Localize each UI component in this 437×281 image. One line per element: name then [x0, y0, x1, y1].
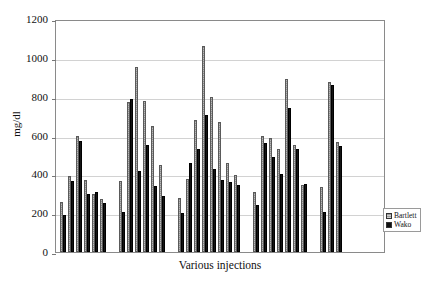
bar-pair [84, 180, 90, 252]
bar-pair [143, 101, 149, 252]
bar-wako [288, 108, 291, 252]
bar-pair [269, 138, 275, 252]
legend-swatch-wako [386, 222, 392, 228]
bar-wako [95, 192, 98, 252]
bar-pair [76, 136, 82, 253]
legend-label-wako: Wako [394, 220, 411, 229]
legend-swatch-bartlett [386, 213, 392, 219]
bar-pair [202, 46, 208, 252]
bar-pair [135, 67, 141, 252]
bar-pair [210, 97, 216, 252]
bar-pair [293, 145, 299, 252]
bar-wako [323, 212, 326, 252]
bar-wako [331, 85, 334, 252]
bar-wako [213, 169, 216, 252]
bar-series-container [56, 21, 384, 252]
bar-wako [138, 171, 141, 252]
bar-wako [296, 149, 299, 252]
bar-pair [92, 192, 98, 252]
y-tick-label: 1200 [16, 14, 48, 24]
bar-wako [79, 141, 82, 252]
legend-label-bartlett: Bartlett [394, 211, 417, 220]
bar-pair [301, 184, 307, 252]
bar-wako [229, 182, 232, 252]
legend-item-bartlett: Bartlett [386, 211, 417, 220]
bar-wako [146, 145, 149, 252]
y-tick-label: 400 [16, 169, 48, 179]
bar-wako [130, 99, 133, 252]
bar-wako [154, 186, 157, 252]
plot-area [55, 20, 385, 253]
y-tick-label: 1000 [16, 53, 48, 63]
y-axis-ticks: 020040060080010001200 [8, 0, 48, 281]
bar-wako [162, 196, 165, 252]
bar-wako [237, 185, 240, 252]
bar-wako [197, 149, 200, 252]
bar-pair [186, 163, 192, 252]
y-tick-mark [52, 254, 56, 255]
bar-wako [122, 212, 125, 252]
bar-pair [218, 122, 224, 252]
bar-wako [272, 157, 275, 252]
bar-pair [285, 79, 291, 252]
y-tick-label: 600 [16, 131, 48, 141]
y-tick-label: 800 [16, 92, 48, 102]
bar-pair [159, 165, 165, 252]
bar-wako [264, 143, 267, 252]
bar-pair [194, 120, 200, 252]
y-tick-label: 0 [16, 247, 48, 257]
bar-wako [103, 203, 106, 253]
bar-pair [320, 187, 326, 252]
bar-wako [71, 181, 74, 252]
bar-pair [127, 99, 133, 252]
bar-pair [100, 199, 106, 252]
bar-pair [336, 142, 342, 252]
bar-wako [339, 146, 342, 252]
chart-legend: Bartlett Wako [383, 208, 421, 232]
bar-wako [304, 184, 307, 252]
bar-pair [253, 192, 259, 252]
bar-wako [221, 180, 224, 252]
bar-pair [261, 136, 267, 253]
bar-pair [178, 198, 184, 252]
bar-pair [68, 176, 74, 252]
bar-pair [119, 181, 125, 252]
bar-wako [205, 115, 208, 252]
y-tick-label: 200 [16, 208, 48, 218]
bar-wako [280, 174, 283, 252]
bar-pair [226, 163, 232, 252]
bar-pair [234, 175, 240, 252]
bar-wako [63, 215, 66, 252]
bar-wako [256, 205, 259, 252]
bar-wako [87, 194, 90, 252]
bar-wako [181, 213, 184, 252]
bar-pair [277, 149, 283, 252]
chart-figure: mg/dl 020040060080010001200 Various inje… [0, 0, 437, 281]
bar-pair [151, 126, 157, 252]
bar-pair [60, 202, 66, 252]
legend-item-wako: Wako [386, 220, 417, 229]
bar-wako [189, 163, 192, 252]
x-axis-label: Various injections [55, 259, 385, 271]
bar-pair [328, 82, 334, 252]
